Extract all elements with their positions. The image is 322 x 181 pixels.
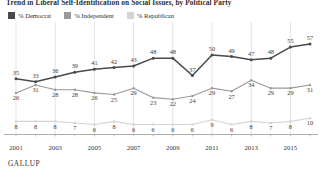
x-axis-tick-2005: 2005 — [88, 144, 102, 152]
x-axis-tick-2007: 2007 — [127, 144, 141, 152]
svg-text:8: 8 — [14, 123, 17, 130]
svg-text:48: 48 — [170, 48, 176, 55]
svg-text:49: 49 — [228, 47, 234, 54]
legend-swatch-republican — [127, 12, 134, 19]
x-axis-tick-2003: 2003 — [48, 144, 62, 152]
svg-text:22: 22 — [170, 100, 176, 107]
legend-swatch-democrat — [8, 12, 15, 19]
svg-text:8: 8 — [54, 123, 57, 130]
legend-swatch-independent — [64, 12, 71, 19]
svg-text:8: 8 — [250, 123, 253, 130]
svg-text:50: 50 — [209, 45, 215, 52]
svg-text:31: 31 — [32, 86, 38, 93]
svg-text:7: 7 — [73, 124, 76, 131]
legend-label-independent: % Independent — [74, 12, 114, 19]
chart-legend: % Democrat % Independent % Republican — [4, 7, 318, 21]
chart-plot-svg: 3533363941424348483750494748555726312828… — [4, 22, 318, 144]
svg-text:7: 7 — [269, 124, 272, 131]
svg-text:35: 35 — [13, 69, 19, 76]
svg-text:6: 6 — [171, 126, 174, 133]
svg-text:6: 6 — [230, 126, 233, 133]
svg-text:8: 8 — [112, 123, 115, 130]
plot-area: 3533363941424348483750494748555726312828… — [4, 22, 318, 144]
chart-container: Trend in Liberal Self-Identification on … — [0, 0, 322, 180]
svg-text:34: 34 — [248, 81, 255, 88]
x-axis-tick-2009: 2009 — [166, 144, 180, 152]
legend-label-democrat: % Democrat — [18, 12, 51, 19]
chart-title: Trend in Liberal Self-Identification on … — [4, 0, 318, 7]
svg-text:29: 29 — [209, 89, 215, 96]
svg-text:6: 6 — [93, 126, 96, 133]
x-axis-tick-2001: 2001 — [9, 144, 23, 152]
svg-text:6: 6 — [132, 126, 135, 133]
svg-text:25: 25 — [111, 96, 117, 103]
svg-text:26: 26 — [13, 94, 19, 101]
svg-text:27: 27 — [228, 93, 234, 100]
svg-text:26: 26 — [91, 94, 97, 101]
svg-text:42: 42 — [111, 58, 117, 65]
svg-text:48: 48 — [268, 48, 274, 55]
svg-text:57: 57 — [307, 34, 313, 41]
svg-text:6: 6 — [191, 126, 194, 133]
svg-text:39: 39 — [72, 62, 78, 69]
legend-item-democrat: % Democrat — [8, 12, 51, 19]
svg-text:36: 36 — [52, 67, 58, 74]
svg-text:23: 23 — [150, 99, 156, 106]
x-axis-tick-2013: 2013 — [244, 144, 258, 152]
svg-text:24: 24 — [189, 97, 196, 104]
svg-text:43: 43 — [130, 56, 136, 63]
svg-text:41: 41 — [91, 59, 97, 66]
chart-source-attribution: GALLUP — [4, 159, 318, 168]
x-axis-tick-2011: 2011 — [205, 144, 218, 152]
svg-text:9: 9 — [210, 121, 213, 128]
legend-item-republican: % Republican — [127, 12, 174, 19]
svg-text:29: 29 — [287, 89, 293, 96]
svg-text:55: 55 — [287, 37, 293, 44]
legend-item-independent: % Independent — [64, 12, 114, 19]
svg-text:29: 29 — [268, 89, 274, 96]
legend-label-republican: % Republican — [137, 12, 174, 19]
svg-text:10: 10 — [307, 119, 313, 126]
svg-text:6: 6 — [152, 126, 155, 133]
svg-text:8: 8 — [289, 123, 292, 130]
svg-text:31: 31 — [307, 86, 313, 93]
svg-text:48: 48 — [150, 48, 156, 55]
svg-text:28: 28 — [52, 91, 58, 98]
svg-text:29: 29 — [130, 89, 136, 96]
svg-text:37: 37 — [189, 66, 195, 73]
svg-text:8: 8 — [34, 123, 37, 130]
svg-text:28: 28 — [72, 91, 78, 98]
x-axis-labels: 20012003200520072009201120132015 — [4, 144, 318, 156]
svg-text:33: 33 — [32, 72, 38, 79]
svg-text:47: 47 — [248, 50, 254, 57]
x-axis-tick-2015: 2015 — [284, 144, 298, 152]
